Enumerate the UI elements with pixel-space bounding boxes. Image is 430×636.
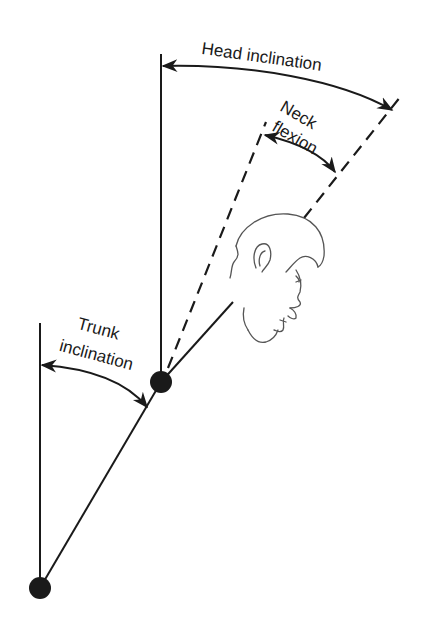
neck-joint-dot [150,371,172,393]
neck-axis-dashed-line [168,122,266,368]
head-sketch-icon [230,214,324,343]
trunk-line [40,382,161,588]
neck-line [161,302,233,382]
hip-joint-dot [29,577,51,599]
diagram-canvas [0,0,430,636]
trunk-inclination-arrow [42,365,147,407]
posture-angle-diagram: Head inclination Neck flexion Trunk incl… [0,0,430,636]
head-inclination-arrow [163,66,392,110]
